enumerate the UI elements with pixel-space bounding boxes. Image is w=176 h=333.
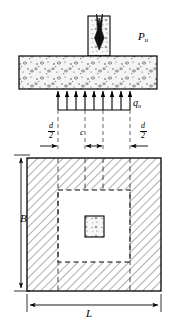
plan-view [27,158,161,291]
label-offset-right: d 2 [136,122,150,141]
label-applied-load-symbol: P [138,30,145,42]
label-footing-length: L [86,308,92,319]
label-footing-width: B [20,213,27,224]
label-offset-left: d 2 [44,122,58,141]
elevation-view [19,14,157,110]
label-soil-pressure: qu [133,98,141,109]
label-offset-right-numerator: d [136,122,150,130]
label-applied-load-subscript: u [145,36,148,43]
footing-slab [19,56,157,89]
footing-punching-shear-figure [0,0,176,333]
label-offset-left-denominator: 2 [44,132,58,140]
column-section [85,216,104,237]
label-column-width: c [80,128,84,137]
label-soil-pressure-subscript: u [138,102,141,109]
label-applied-load: Pu [138,31,148,44]
soil-pressure-arrows [58,91,130,110]
label-offset-left-numerator: d [44,122,58,130]
label-offset-right-denominator: 2 [136,132,150,140]
dimension-L [27,294,161,312]
